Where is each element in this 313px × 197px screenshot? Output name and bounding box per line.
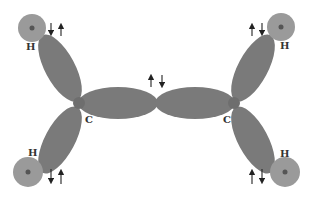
ch-orbital-top-right (222, 28, 283, 107)
label-h-bottom-right: H (280, 148, 289, 159)
carbon-nucleus-right (228, 97, 240, 109)
label-h-bottom-left: H (28, 147, 37, 158)
hydrogen-bottom-right (270, 157, 300, 187)
ethylene-orbital-diagram: H C H H C H (0, 0, 313, 197)
carbon-nucleus-left (73, 97, 85, 109)
label-h-top-left: H (26, 41, 35, 52)
hydrogen-top-right (267, 13, 295, 41)
label-c-left: C (85, 114, 93, 125)
label-h-top-right: H (280, 40, 289, 51)
hydrogen-bottom-left (13, 157, 43, 187)
label-c-right: C (223, 114, 231, 125)
hydrogen-top-left (18, 14, 46, 42)
